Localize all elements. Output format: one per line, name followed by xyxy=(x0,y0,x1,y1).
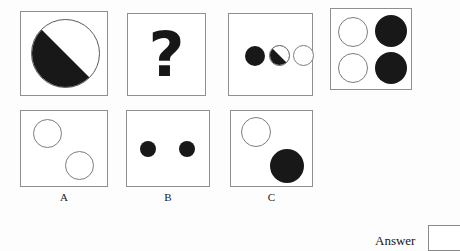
open-circle-medium-icon xyxy=(65,151,94,180)
option-label-b: B xyxy=(126,191,210,203)
filled-circle-large-icon xyxy=(270,149,304,183)
filled-circle-small-icon xyxy=(179,141,195,157)
puzzle-canvas: ? A B C Answer xyxy=(0,0,460,251)
sequence-cell-4 xyxy=(330,8,412,90)
option-label-c: C xyxy=(230,191,313,203)
option-panel-a[interactable] xyxy=(20,110,108,187)
half-filled-circle-large-icon xyxy=(31,19,100,88)
answer-label: Answer xyxy=(375,233,415,249)
answer-row: Answer xyxy=(375,225,460,251)
sequence-cell-1 xyxy=(20,11,108,96)
filled-circle-small-icon xyxy=(140,141,156,157)
open-circle-medium-icon xyxy=(338,17,368,47)
open-circle-medium-icon xyxy=(33,119,62,148)
answer-input[interactable] xyxy=(428,225,460,251)
filled-circle-small-icon xyxy=(245,46,265,66)
filled-circle-medium-icon xyxy=(375,15,407,47)
filled-circle-medium-icon xyxy=(375,52,407,84)
option-panel-c[interactable] xyxy=(230,110,313,187)
open-circle-medium-icon xyxy=(338,53,368,83)
half-filled-circle-small-icon xyxy=(269,45,290,66)
question-mark-icon: ? xyxy=(128,24,205,86)
option-label-a: A xyxy=(20,191,108,203)
sequence-cell-2-missing: ? xyxy=(127,13,206,96)
open-circle-small-icon xyxy=(293,45,314,66)
sequence-cell-3 xyxy=(228,13,313,96)
option-panel-b[interactable] xyxy=(126,110,210,187)
open-circle-medium-icon xyxy=(241,117,271,147)
